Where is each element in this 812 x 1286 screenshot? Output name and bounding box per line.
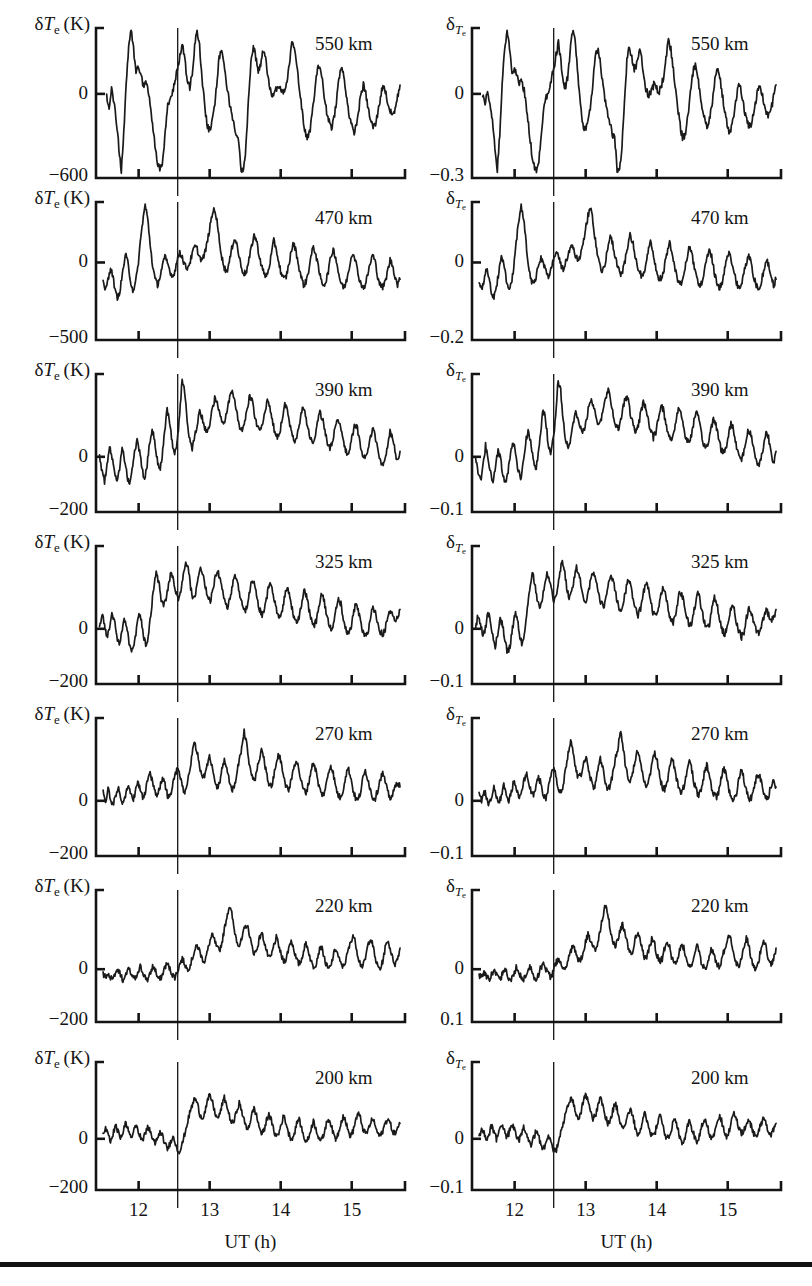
altitude-annotation: 325 km (315, 552, 373, 571)
y-tick-label-zero: 0 (79, 83, 89, 102)
y-tick-label-min: −500 (49, 327, 88, 346)
x-axis-title: UT (h) (567, 1232, 687, 1251)
x-tick-label-13: 13 (190, 1200, 230, 1219)
y-axis-label: δTe (446, 704, 466, 728)
x-tick-label-13: 13 (566, 1200, 606, 1219)
y-axis-label: δTe (K) (35, 876, 90, 899)
altitude-annotation: 470 km (691, 208, 749, 227)
altitude-annotation: 200 km (691, 1068, 749, 1087)
altitude-annotation: 220 km (315, 896, 373, 915)
y-tick-label-min: −0.1 (430, 843, 464, 862)
x-tick-label-15: 15 (332, 1200, 372, 1219)
y-tick-label-zero: 0 (455, 83, 465, 102)
y-axis-label: δTe (446, 1048, 466, 1072)
y-tick-label-zero: 0 (455, 618, 465, 637)
y-tick-label-zero: 0 (455, 251, 465, 270)
x-tick-label-12: 12 (495, 1200, 535, 1219)
y-axis-label: δTe (K) (35, 532, 90, 555)
altitude-annotation: 220 km (691, 896, 749, 915)
data-trace (100, 562, 400, 652)
y-tick-label-zero: 0 (79, 618, 89, 637)
data-trace (103, 1094, 400, 1154)
altitude-annotation: 550 km (691, 34, 749, 53)
altitude-annotation: 390 km (691, 380, 749, 399)
y-tick-label-min: −600 (49, 165, 88, 184)
y-axis-label: δTe (K) (35, 188, 90, 211)
footer-rule (0, 1262, 812, 1267)
x-tick-label-14: 14 (261, 1200, 301, 1219)
y-axis-label: δTe (K) (35, 704, 90, 727)
y-tick-label-zero: 0 (455, 958, 465, 977)
data-trace (103, 908, 400, 983)
y-tick-label-min: −200 (49, 499, 88, 518)
data-trace (476, 561, 776, 654)
altitude-annotation: 270 km (691, 724, 749, 743)
y-axis-label: δTe (K) (35, 1048, 90, 1071)
altitude-annotation: 390 km (315, 380, 373, 399)
x-tick-label-12: 12 (119, 1200, 159, 1219)
y-tick-label-min: −200 (49, 1009, 88, 1028)
panel-grid: δTe (K)0−600550 kmδTe0−0.3550 kmδTe (K)0… (0, 0, 812, 1240)
altitude-annotation: 200 km (315, 1068, 373, 1087)
y-tick-label-min: 0.1 (440, 1009, 464, 1028)
x-tick-label-15: 15 (708, 1200, 748, 1219)
y-tick-label-zero: 0 (455, 790, 465, 809)
y-tick-label-zero: 0 (79, 1128, 89, 1147)
y-tick-label-min: −0.3 (430, 165, 464, 184)
y-axis-label: δTe (446, 14, 466, 38)
data-trace (479, 906, 776, 982)
y-tick-label-zero: 0 (79, 251, 89, 270)
figure-multi-panel-electron-temperature: δTe (K)0−600550 kmδTe0−0.3550 kmδTe (K)0… (0, 0, 812, 1286)
y-tick-label-zero: 0 (455, 1128, 465, 1147)
y-axis-label: δTe (446, 360, 466, 384)
y-tick-label-zero: 0 (79, 958, 89, 977)
y-tick-label-min: −200 (49, 671, 88, 690)
altitude-annotation: 470 km (315, 208, 373, 227)
y-tick-label-min: −0.2 (430, 327, 464, 346)
y-axis-label: δTe (446, 876, 466, 900)
y-tick-label-zero: 0 (79, 790, 89, 809)
y-tick-label-min: −200 (49, 1177, 88, 1196)
y-tick-label-zero: 0 (79, 446, 89, 465)
y-axis-label: δTe (K) (35, 14, 90, 37)
altitude-annotation: 325 km (691, 552, 749, 571)
x-axis-title: UT (h) (191, 1232, 311, 1251)
altitude-annotation: 550 km (315, 34, 373, 53)
y-tick-label-min: −200 (49, 843, 88, 862)
y-tick-label-zero: 0 (455, 446, 465, 465)
altitude-annotation: 270 km (315, 724, 373, 743)
y-tick-label-min: −0.1 (430, 499, 464, 518)
data-trace (479, 1093, 776, 1152)
y-tick-label-min: −0.1 (430, 671, 464, 690)
y-axis-label: δTe (446, 532, 466, 556)
y-tick-label-min: −0.1 (430, 1177, 464, 1196)
y-axis-label: δTe (446, 188, 466, 212)
x-tick-label-14: 14 (637, 1200, 677, 1219)
y-axis-label: δTe (K) (35, 360, 90, 383)
